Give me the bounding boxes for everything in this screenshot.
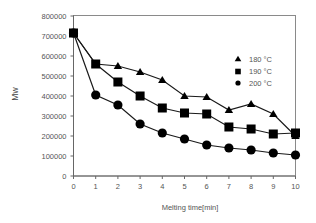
data-point-circle xyxy=(247,145,256,154)
data-point-circle xyxy=(69,28,78,37)
y-tick-label: 600000 xyxy=(41,52,66,61)
y-tick-label: 100000 xyxy=(41,152,66,161)
x-tick-label: 3 xyxy=(138,182,142,191)
data-point-square xyxy=(202,110,211,119)
data-point-square xyxy=(291,129,300,138)
legend-marker-triangle xyxy=(235,56,242,61)
data-point-square xyxy=(91,60,100,69)
y-tick-label: 500000 xyxy=(41,72,66,81)
data-point-circle xyxy=(202,140,211,149)
data-point-circle xyxy=(291,150,300,159)
data-point-triangle xyxy=(247,100,255,107)
x-tick-label: 9 xyxy=(271,182,275,191)
x-tick-label: 8 xyxy=(249,182,253,191)
x-tick-label: 0 xyxy=(71,182,75,191)
data-point-square xyxy=(136,92,145,101)
legend-item: 180 °C xyxy=(235,55,273,64)
data-point-square xyxy=(180,109,189,118)
data-point-circle xyxy=(136,119,145,128)
axes: 0100000200000300000400000500000600000700… xyxy=(41,12,299,191)
data-point-square xyxy=(158,104,167,113)
chart: 0100000200000300000400000500000600000700… xyxy=(0,0,316,223)
y-tick-label: 400000 xyxy=(41,92,66,101)
data-point-circle xyxy=(269,148,278,157)
x-axis-label: Melting time[min] xyxy=(162,203,219,212)
data-point-circle xyxy=(91,90,100,99)
legend-item: 200 °C xyxy=(235,79,272,88)
y-tick-label: 800000 xyxy=(41,12,66,21)
series-markers xyxy=(69,28,300,159)
x-tick-label: 6 xyxy=(205,182,209,191)
x-tick-label: 4 xyxy=(160,182,164,191)
x-tick-label: 1 xyxy=(94,182,98,191)
x-tick-label: 10 xyxy=(291,182,299,191)
legend-marker-square xyxy=(235,69,241,75)
legend-item: 190 °C xyxy=(235,67,272,76)
y-tick-label: 700000 xyxy=(41,32,66,41)
data-point-triangle xyxy=(269,110,277,117)
x-tick-label: 5 xyxy=(182,182,186,191)
x-tick-label: 7 xyxy=(227,182,231,191)
data-point-square xyxy=(269,130,278,139)
data-point-square xyxy=(113,78,122,87)
x-tick-label: 2 xyxy=(116,182,120,191)
data-point-triangle xyxy=(180,92,188,99)
data-point-square xyxy=(224,123,233,132)
y-tick-label: 0 xyxy=(62,172,66,181)
y-tick-label: 200000 xyxy=(41,132,66,141)
data-point-circle xyxy=(158,128,167,137)
data-point-circle xyxy=(180,134,189,143)
legend-label: 200 °C xyxy=(249,79,273,88)
data-point-square xyxy=(247,125,256,134)
legend-marker-circle xyxy=(235,80,240,85)
legend-label: 180 °C xyxy=(249,55,273,64)
legend-label: 190 °C xyxy=(249,67,273,76)
legend: 180 °C190 °C200 °C xyxy=(235,55,273,88)
data-point-circle xyxy=(113,100,122,109)
y-axis-label: Mw xyxy=(10,87,20,101)
y-tick-label: 300000 xyxy=(41,112,66,121)
data-point-circle xyxy=(224,143,233,152)
